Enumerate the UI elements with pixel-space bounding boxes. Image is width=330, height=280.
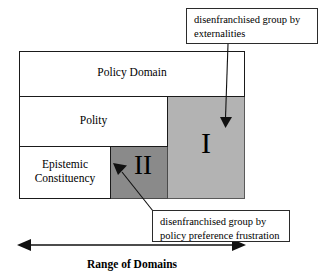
leader-line-externalities	[220, 44, 232, 128]
callout-externalities: disenfranchised group by externalities	[186, 8, 318, 44]
leader-line-frustration	[113, 163, 153, 211]
diagram-canvas: Policy Domain Polity Epistemic Constitue…	[0, 0, 330, 280]
callout-policy-preference-frustration: disenfranchised group by policy preferen…	[152, 210, 290, 242]
range-of-domains-caption: Range of Domains	[19, 258, 245, 270]
